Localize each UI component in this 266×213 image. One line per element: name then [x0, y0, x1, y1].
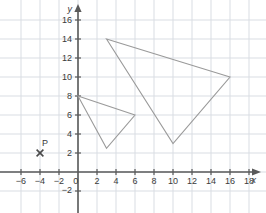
y-tick-label: −2 [62, 186, 72, 195]
x-tick-label: 2 [94, 177, 99, 186]
y-tick-label: 14 [62, 35, 72, 44]
y-tick-label: 4 [67, 130, 72, 139]
y-tick-label: 10 [62, 73, 72, 82]
y-tick-label: 12 [62, 54, 72, 63]
x-tick-label: 4 [113, 177, 118, 186]
point-label-p: P [42, 139, 48, 148]
y-axis-label: y [68, 5, 73, 14]
x-axis-label: x [252, 176, 257, 185]
shape-small-triangle [78, 96, 135, 148]
y-tick-label: 16 [62, 16, 72, 25]
y-tick-label: 8 [67, 92, 72, 101]
x-tick-label: 14 [206, 177, 216, 186]
x-tick-label: 6 [132, 177, 137, 186]
x-tick-label: 10 [168, 177, 178, 186]
x-tick-label: 16 [225, 177, 235, 186]
y-tick-label: 6 [67, 111, 72, 120]
y-tick-label: 2 [67, 149, 72, 158]
x-tick-label: 12 [187, 177, 197, 186]
coordinate-plane-figure: P−6−4−2024681012141618−2246810121416xy [0, 0, 266, 213]
x-tick-label: 8 [151, 177, 156, 186]
x-tick-label: −6 [16, 177, 26, 186]
y-axis-arrow [74, 4, 81, 12]
x-tick-label: −4 [35, 177, 45, 186]
x-tick-label: 0 [73, 177, 78, 186]
